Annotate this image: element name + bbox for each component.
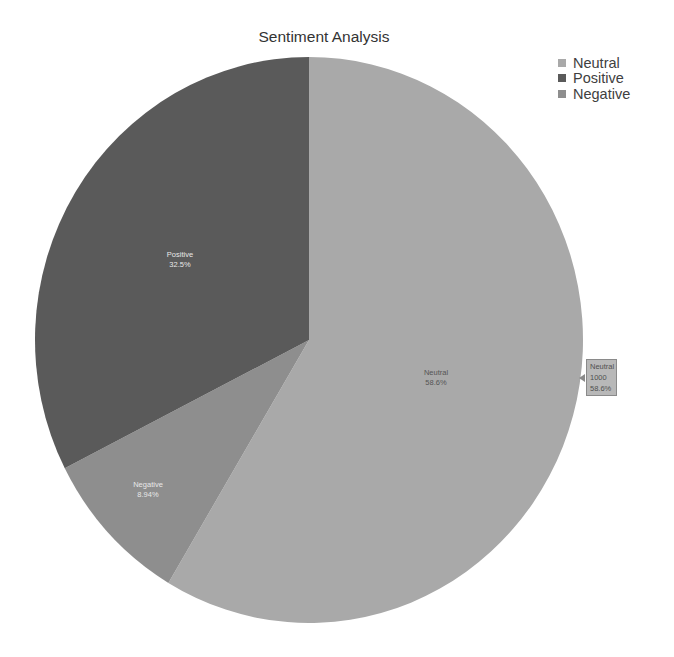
slice-label-neutral: Neutral 58.6% — [424, 368, 448, 388]
legend-item-positive[interactable]: Positive — [558, 71, 630, 87]
legend-item-negative[interactable]: Negative — [558, 86, 630, 102]
slice-label-negative-name: Negative — [133, 480, 163, 490]
legend-label-neutral: Neutral — [573, 55, 620, 71]
slice-label-negative-pct: 8.94% — [133, 490, 163, 500]
legend-label-positive: Positive — [573, 70, 624, 86]
legend-swatch-positive-icon — [558, 74, 566, 82]
slice-label-neutral-name: Neutral — [424, 368, 448, 378]
slice-label-negative: Negative 8.94% — [133, 480, 163, 500]
tooltip-arrow-icon — [579, 374, 585, 382]
tooltip-value: 1000 — [590, 372, 616, 383]
legend-item-neutral[interactable]: Neutral — [558, 55, 630, 71]
slice-label-positive: Positive 32.5% — [167, 250, 193, 270]
hover-tooltip: Neutral 1000 58.6% — [586, 359, 617, 396]
slice-label-neutral-pct: 58.6% — [424, 378, 448, 388]
legend-label-negative: Negative — [573, 86, 630, 102]
slice-label-positive-pct: 32.5% — [167, 260, 193, 270]
legend-swatch-neutral-icon — [558, 59, 566, 67]
slice-label-positive-name: Positive — [167, 250, 193, 260]
tooltip-category: Neutral — [590, 361, 616, 372]
tooltip-pct: 58.6% — [590, 383, 616, 394]
chart-legend: Neutral Positive Negative — [558, 55, 630, 102]
legend-swatch-negative-icon — [558, 90, 566, 98]
